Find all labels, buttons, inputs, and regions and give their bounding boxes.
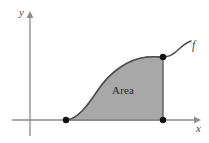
function-curve-extension	[163, 41, 191, 57]
y-axis-label: y	[19, 7, 24, 18]
y-axis-arrowhead	[27, 11, 34, 18]
figure-canvas	[0, 0, 209, 143]
area-region-label: Area	[112, 85, 134, 96]
point-right-endpoint-top	[160, 54, 166, 60]
area-under-curve-figure: y x f Area	[0, 0, 209, 143]
point-left-endpoint	[63, 117, 69, 123]
point-right-endpoint-bottom	[160, 117, 166, 123]
curve-label-f: f	[192, 39, 195, 51]
x-axis-label: x	[196, 123, 201, 134]
